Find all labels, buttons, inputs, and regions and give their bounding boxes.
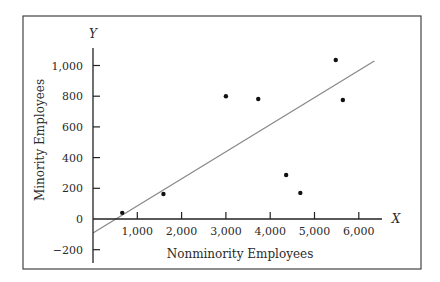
data-point	[298, 191, 302, 195]
data-point	[161, 192, 165, 196]
y-tick-label: 0	[76, 213, 83, 226]
y-tick-label: 1,000	[52, 60, 84, 73]
y-axis-letter: Y	[89, 27, 98, 41]
y-tick-label: 600	[62, 121, 83, 134]
y-tick-label: 800	[62, 90, 83, 103]
data-point	[341, 98, 345, 102]
x-tick-label: 1,000	[122, 225, 154, 238]
data-point	[120, 211, 124, 215]
scatter-chart: 1,0002,0003,0004,0005,0006,000 −20002004…	[0, 0, 440, 282]
x-tick-label: 4,000	[254, 225, 286, 238]
y-tick-label: −200	[53, 244, 83, 257]
data-point	[256, 97, 260, 101]
x-tick-label: 5,000	[299, 225, 331, 238]
x-tick-label: 3,000	[210, 225, 242, 238]
x-axis-title: Nonminority Employees	[167, 247, 314, 261]
data-point	[224, 94, 228, 98]
y-tick-label: 400	[62, 152, 83, 165]
y-tick-label: 200	[62, 182, 83, 195]
y-axis-title: Minority Employees	[33, 79, 47, 201]
x-axis-letter: X	[391, 212, 401, 226]
data-point	[334, 58, 338, 62]
data-point	[284, 173, 288, 177]
x-tick-label: 2,000	[166, 225, 198, 238]
x-tick-label: 6,000	[343, 225, 375, 238]
